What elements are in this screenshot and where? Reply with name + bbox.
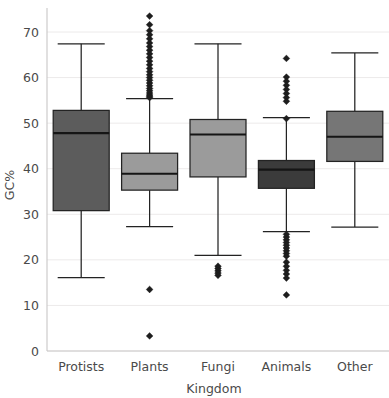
- boxplot-box-plants: [122, 13, 178, 340]
- boxplot-box-other: [327, 53, 383, 227]
- outlier-point: [146, 13, 153, 20]
- outlier-point: [283, 275, 290, 282]
- x-axis-title: Kingdom: [186, 381, 241, 396]
- y-tick-label: 20: [23, 252, 39, 267]
- outlier-point: [283, 115, 290, 122]
- box-elements-group: [53, 13, 383, 340]
- y-axis-title: GC%: [2, 170, 17, 200]
- x-tick-label-plants: Plants: [131, 359, 169, 374]
- outlier-point: [146, 286, 153, 293]
- boxplot-box-animals: [258, 55, 314, 298]
- boxplot-svg: 010203040506070 ProtistsPlantsFungiAnima…: [0, 0, 389, 398]
- y-tick-label: 0: [31, 344, 39, 359]
- y-tick-label: 40: [23, 161, 39, 176]
- boxplot-chart: 010203040506070 ProtistsPlantsFungiAnima…: [0, 0, 389, 398]
- outlier-point: [283, 292, 290, 299]
- x-tick-label-fungi: Fungi: [201, 359, 235, 374]
- boxplot-box-fungi: [190, 44, 246, 279]
- x-tick-label-other: Other: [337, 359, 373, 374]
- y-tick-labels-group: 010203040506070: [23, 25, 39, 359]
- x-tick-label-animals: Animals: [262, 359, 312, 374]
- outlier-point: [146, 333, 153, 340]
- y-tick-label: 10: [23, 298, 39, 313]
- outlier-point: [283, 55, 290, 62]
- x-tick-labels-group: ProtistsPlantsFungiAnimalsOther: [58, 359, 373, 374]
- boxplot-box-protists: [53, 44, 109, 278]
- box-iqr-rect: [258, 161, 314, 189]
- box-iqr-rect: [122, 153, 178, 190]
- y-tick-label: 30: [23, 207, 39, 222]
- box-iqr-rect: [53, 110, 109, 210]
- y-tick-label: 50: [23, 116, 39, 131]
- y-tick-label: 60: [23, 70, 39, 85]
- y-tick-label: 70: [23, 25, 39, 40]
- box-iqr-rect: [190, 119, 246, 176]
- x-tick-label-protists: Protists: [58, 359, 104, 374]
